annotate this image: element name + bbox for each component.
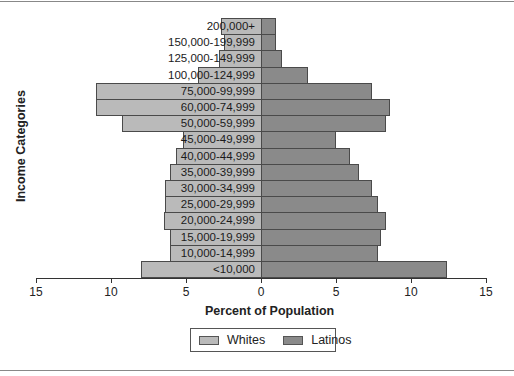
x-tick-label: 0: [246, 285, 276, 299]
bar-latinos: [261, 131, 336, 149]
bar-latinos: [261, 212, 386, 230]
bar-latinos: [261, 115, 386, 132]
bar-latinos: [261, 164, 359, 181]
population-pyramid-chart: 200,000+150,000-199,999125,000-149,99910…: [0, 0, 514, 376]
x-tick: [36, 278, 37, 283]
x-tick-label: 10: [96, 285, 126, 299]
x-tick: [261, 278, 262, 283]
category-label: 25,000-29,999: [120, 196, 255, 212]
x-tick: [186, 278, 187, 283]
x-tick: [336, 278, 337, 283]
bar-latinos: [261, 261, 447, 278]
x-tick: [486, 278, 487, 283]
category-label: 150,000-199,999: [120, 34, 255, 50]
x-tick-label: 15: [21, 285, 51, 299]
y-axis-label: Income Categories: [14, 92, 28, 202]
category-label: 50,000-59,999: [120, 115, 255, 131]
bar-latinos: [261, 18, 276, 35]
legend-label-latinos: Latinos: [311, 333, 351, 347]
bar-latinos: [261, 180, 372, 197]
bar-latinos: [261, 196, 378, 213]
x-tick-label: 5: [321, 285, 351, 299]
latinos-swatch: [283, 336, 303, 345]
bar-latinos: [261, 50, 282, 68]
bar-latinos: [261, 34, 276, 51]
category-label: 60,000-74,999: [120, 99, 255, 115]
x-tick-label: 5: [171, 285, 201, 299]
category-label: 200,000+: [120, 18, 255, 34]
legend-item-latinos: Latinos: [283, 333, 351, 347]
x-axis-label: Percent of Population: [205, 304, 334, 318]
category-label: 30,000-34,999: [120, 180, 255, 196]
x-tick: [111, 278, 112, 283]
bar-latinos: [261, 67, 308, 84]
category-label: 35,000-39,999: [120, 164, 255, 180]
legend: Whites Latinos: [190, 328, 336, 352]
bar-latinos: [261, 148, 350, 165]
category-label: 15,000-19,999: [120, 229, 255, 245]
bar-latinos: [261, 99, 390, 116]
category-label: 45,000-49,999: [120, 131, 255, 147]
bar-latinos: [261, 229, 381, 246]
x-tick: [411, 278, 412, 283]
legend-label-whites: Whites: [227, 333, 265, 347]
x-tick-label: 15: [471, 285, 501, 299]
category-label: <10,000: [120, 261, 255, 277]
category-label: 75,000-99,999: [120, 83, 255, 99]
x-tick-label: 10: [396, 285, 426, 299]
whites-swatch: [199, 336, 219, 345]
bar-latinos: [261, 245, 378, 262]
bar-latinos: [261, 83, 372, 100]
category-label: 10,000-14,999: [120, 245, 255, 261]
category-label: 125,000-149,999: [120, 50, 255, 66]
category-label: 100,000-124,999: [120, 67, 255, 83]
category-label: 20,000-24,999: [120, 212, 255, 228]
legend-item-whites: Whites: [199, 333, 265, 347]
category-label: 40,000-44,999: [120, 148, 255, 164]
